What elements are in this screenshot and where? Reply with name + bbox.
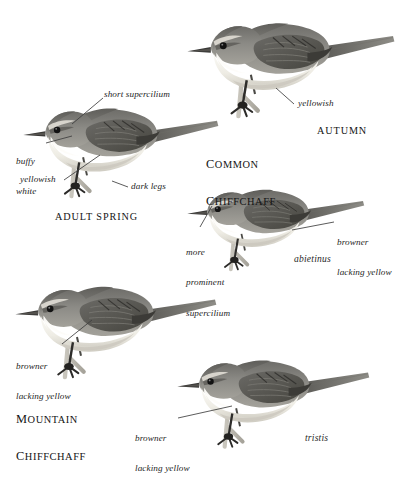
species-title-mountain-line2: HIFFCHAFF bbox=[25, 451, 86, 462]
annotation-buffy-white-line2: white bbox=[16, 186, 36, 196]
annotation-more-prominent-supercilium: more prominent supercilium bbox=[186, 226, 230, 339]
annotation-buffy-white-line1: buffy bbox=[16, 156, 36, 166]
annotation-lacking-yellow: lacking yellow bbox=[337, 267, 392, 277]
annotation-lacking-yellow-tristis: lacking yellow bbox=[135, 463, 190, 473]
annotation-browner: browner bbox=[337, 237, 392, 247]
species-title-initial-3: M bbox=[16, 412, 28, 426]
annotation-yellowish-autumn: yellowish bbox=[298, 98, 334, 108]
annotation-browner-mtn: browner bbox=[16, 361, 71, 371]
annotation-browner-tristis: browner bbox=[135, 433, 190, 443]
species-title-initial: C bbox=[206, 157, 215, 171]
species-title-line1: OMMON bbox=[215, 159, 259, 170]
species-title-common-chiffchaff: COMMON CHIFFCHAFF bbox=[206, 135, 276, 233]
species-title-initial-2: C bbox=[206, 194, 215, 208]
subspecies-label-abietinus: abietinus bbox=[294, 254, 331, 265]
species-title-mountain-chiffchaff: MOUNTAIN CHIFFCHAFF bbox=[16, 390, 86, 477]
species-title-initial-4: C bbox=[16, 449, 25, 463]
annotation-more: more bbox=[186, 247, 230, 257]
annotation-browner-lacking-yellow-abietinus: browner lacking yellow bbox=[337, 216, 392, 298]
annotation-browner-lacking-yellow-tristis: browner lacking yellow bbox=[135, 412, 190, 477]
figure-tristis-bird bbox=[177, 360, 369, 446]
subspecies-label-tristis: tristis bbox=[305, 433, 328, 444]
species-title-mountain-line1: OUNTAIN bbox=[28, 414, 78, 425]
annotation-yellowish-spring: yellowish bbox=[20, 174, 56, 184]
annotation-dark-legs: dark legs bbox=[131, 181, 166, 191]
figure-autumn-bird bbox=[187, 23, 394, 116]
plumage-title-autumn: AUTUMN bbox=[317, 125, 367, 136]
annotation-short-supercilium: short supercilium bbox=[104, 89, 170, 99]
annotation-prominent: prominent bbox=[186, 277, 230, 287]
annotation-supercilium: supercilium bbox=[186, 308, 230, 318]
plumage-title-adult-spring: ADULT SPRING bbox=[55, 211, 138, 222]
species-title-line2: HIFFCHAFF bbox=[215, 196, 276, 207]
